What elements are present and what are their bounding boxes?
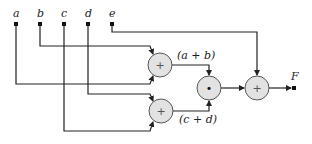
dataflow-diagram: a b c d e + + • + (a + b) (c + d) F	[0, 0, 312, 144]
edge-label-sum-cd: (c + d)	[179, 113, 217, 126]
adder-symbol-3: +	[252, 82, 261, 95]
adder-symbol-2: +	[156, 105, 165, 118]
input-terminal-d	[86, 22, 90, 26]
wire-a-to-add1	[16, 26, 153, 84]
input-label-c: c	[61, 7, 67, 20]
wire-b-to-add1	[40, 26, 153, 54]
input-label-b: b	[37, 7, 44, 20]
input-label-d: d	[85, 7, 92, 20]
output-label-F: F	[290, 70, 299, 83]
wire-c-to-add2	[64, 26, 153, 131]
input-label-a: a	[13, 7, 20, 20]
input-terminal-b	[38, 22, 42, 26]
input-terminal-c	[62, 22, 66, 26]
input-terminal-e	[110, 22, 114, 26]
adder-symbol-1: +	[155, 59, 164, 72]
output-terminal-F	[292, 86, 296, 90]
wire-add1-to-mul	[172, 65, 209, 75]
wire-d-to-add2	[88, 26, 153, 101]
input-label-e: e	[109, 7, 116, 20]
edge-label-sum-ab: (a + b)	[177, 49, 215, 62]
multiplier-symbol: •	[206, 82, 213, 95]
input-terminal-a	[14, 22, 18, 26]
wire-add2-to-mul	[173, 101, 209, 111]
